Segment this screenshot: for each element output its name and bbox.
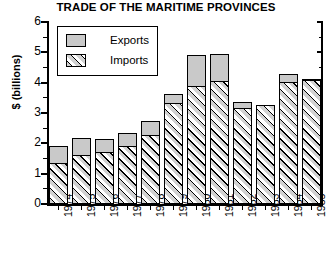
y-tick-label: 6 [17, 15, 41, 27]
y-tick-minor [43, 188, 48, 189]
bar-segment-imports [302, 80, 322, 204]
bar-segment-imports [279, 82, 299, 204]
x-tick [242, 204, 244, 210]
bar-1981 [210, 54, 230, 204]
bar-segment-imports [118, 146, 138, 204]
bar-segment-imports [72, 155, 92, 204]
y-tick-minor [43, 37, 48, 38]
x-tick [265, 204, 267, 210]
bar-1975 [72, 138, 92, 204]
chart-legend: Exports Imports [57, 26, 158, 76]
diagonal-hatch-swatch-icon [66, 54, 86, 67]
bar-1979 [164, 94, 184, 204]
x-tick [127, 204, 129, 210]
bar-segment-exports [187, 55, 207, 87]
solid-gray-swatch-icon [66, 34, 86, 47]
y-tick-minor-right [319, 37, 323, 38]
y-tick-label: 1 [17, 167, 41, 179]
y-tick-label: 2 [17, 136, 41, 148]
y-tick-label: 5 [17, 45, 41, 57]
bar-segment-exports [49, 146, 69, 164]
bar-segment-imports [95, 152, 115, 204]
bar-segment-imports [210, 81, 230, 204]
y-tick-minor [43, 158, 48, 159]
bar-segment-imports [49, 163, 69, 204]
x-tick [311, 204, 313, 210]
y-tick-major [41, 203, 48, 205]
bar-1980 [187, 55, 207, 204]
y-tick-label: 3 [17, 106, 41, 118]
bar-segment-imports [187, 86, 207, 204]
y-tick-major [41, 112, 48, 114]
bar-1982 [233, 102, 253, 204]
x-tick [196, 204, 198, 210]
x-tick [288, 204, 290, 210]
y-tick-minor [43, 97, 48, 98]
x-tick [81, 204, 83, 210]
y-tick-major [41, 82, 48, 84]
bar-segment-imports [141, 135, 161, 204]
bar-1984 [279, 74, 299, 204]
y-tick-minor-right [319, 67, 323, 68]
y-tick-major [41, 21, 48, 23]
y-tick-minor [43, 67, 48, 68]
bar-1976 [95, 139, 115, 204]
bar-segment-imports [256, 105, 276, 204]
x-tick [219, 204, 221, 210]
x-tick [104, 204, 106, 210]
bar-1974 [49, 146, 69, 204]
y-tick-minor [43, 128, 48, 129]
y-tick-major-right [317, 21, 323, 23]
x-tick [173, 204, 175, 210]
y-tick-major-right [317, 51, 323, 53]
y-tick-label: 0 [17, 197, 41, 209]
bar-segment-exports [72, 138, 92, 157]
chart-title: TRADE OF THE MARITIME PROVINCES [0, 1, 332, 13]
bar-1978 [141, 121, 161, 204]
bar-1977 [118, 133, 138, 204]
y-tick-major [41, 51, 48, 53]
legend-label-imports: Imports [110, 53, 148, 68]
bar-1985 [302, 79, 322, 204]
bar-1983 [256, 105, 276, 204]
y-tick-major [41, 142, 48, 144]
chart-screenshot: TRADE OF THE MARITIME PROVINCES $ (billi… [0, 0, 332, 259]
x-tick [150, 204, 152, 210]
bar-segment-exports [210, 54, 230, 82]
bar-segment-imports [164, 103, 184, 204]
y-tick-major [41, 173, 48, 175]
x-tick [58, 204, 60, 210]
legend-label-exports: Exports [110, 33, 149, 48]
y-tick-label: 4 [17, 76, 41, 88]
bar-segment-imports [233, 108, 253, 204]
